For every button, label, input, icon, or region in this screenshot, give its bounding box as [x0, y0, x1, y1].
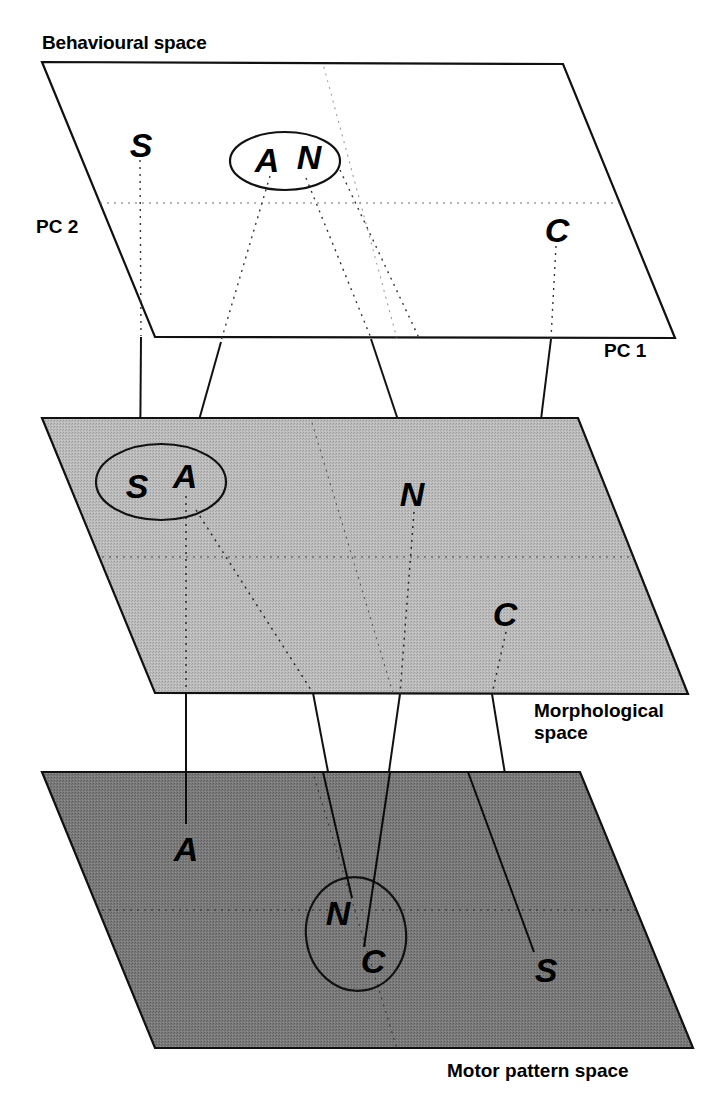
motor-pattern-space-label: Motor pattern space: [447, 1060, 629, 1081]
morphological-space-label-line2: space: [534, 722, 588, 743]
behavioural-point-A: A: [255, 143, 280, 177]
plane-behavioural: [42, 60, 675, 350]
morphological-space-label-line1: Morphological: [534, 700, 664, 721]
behavioural-space-title: Behavioural space: [42, 32, 207, 53]
motor-point-S: S: [535, 953, 558, 987]
morphological-point-A: A: [173, 459, 198, 493]
morphological-point-N: N: [400, 477, 425, 511]
motor-point-C: C: [361, 944, 386, 978]
morphological-plane-surface: [42, 418, 688, 694]
behavioural-axis-pc2: PC 2: [36, 216, 78, 237]
diagram-svg: [0, 0, 712, 1113]
behavioural-plane-surface: [42, 62, 675, 338]
figure-canvas: Behavioural space PC 2 PC 1 S A N C S A …: [0, 0, 712, 1113]
plane-motor-pattern: [42, 770, 693, 1052]
behavioural-axis-pc1: PC 1: [604, 340, 646, 361]
plane-morphological: [42, 416, 688, 700]
behavioural-point-S: S: [130, 128, 153, 162]
motor-plane-surface: [42, 772, 693, 1048]
behavioural-point-N: N: [297, 140, 322, 174]
morphological-point-S: S: [126, 469, 149, 503]
behavioural-point-C: C: [545, 213, 570, 247]
motor-point-N: N: [326, 896, 351, 930]
motor-point-A: A: [174, 832, 199, 866]
morphological-point-C: C: [493, 597, 518, 631]
